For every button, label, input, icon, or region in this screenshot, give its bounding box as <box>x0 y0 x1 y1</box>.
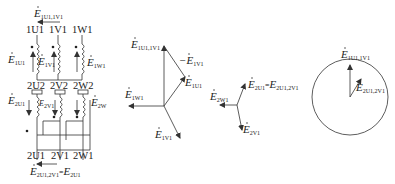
terminal-2V1: 2V1 <box>51 150 69 161</box>
phasor-E2V1 <box>237 105 242 130</box>
emf-label-1U1: E1U1 <box>7 53 25 66</box>
transformer-connection-diagram: E1U1,1V1 1U1 1V1 1W1 E1U1 E1V1 E1W1 2U2 … <box>0 0 395 184</box>
svg-text:E2W1: E2W1 <box>209 90 228 103</box>
secondary-phasor-diagram <box>220 84 245 130</box>
terminal-2U2: 2U2 <box>27 80 45 91</box>
bottom-emf-label: E2U1,2V1=E2U1 <box>29 165 81 178</box>
svg-text:−E1V1: −E1V1 <box>179 54 204 67</box>
circuit-labels: E1U1,1V1 1U1 1V1 1W1 E1U1 E1V1 E1W1 2U2 … <box>7 7 107 178</box>
svg-text:E1U1,1V1: E1U1,1V1 <box>130 38 160 51</box>
svg-text:E2U1=E2U1,2V1: E2U1=E2U1,2V1 <box>247 78 299 91</box>
top-emf-label: E1U1,1V1 <box>33 7 63 20</box>
terminal-1W1: 1W1 <box>72 24 92 35</box>
terminal-1V1: 1V1 <box>49 24 67 35</box>
winding-circuit <box>29 22 90 164</box>
svg-text:E1W1: E1W1 <box>124 88 143 101</box>
primary-coil-w <box>82 35 84 80</box>
secondary-phasor-labels: E2U1=E2U1,2V1 E2W1 E2V1 <box>209 78 299 136</box>
svg-text:E2V1: E2V1 <box>242 123 260 136</box>
svg-text:E1U1: E1U1 <box>184 76 202 89</box>
terminal-2V2: 2V2 <box>50 80 68 91</box>
phasor-E1V1 <box>164 106 180 138</box>
emf-label-2U1: E2U1 <box>7 94 25 107</box>
svg-text:E1V1: E1V1 <box>154 128 172 141</box>
phasor-E1U1 <box>164 77 185 106</box>
phasor-E2U1 <box>237 84 245 105</box>
clock-diagram <box>312 59 388 135</box>
emf-label-1W1: E1W1 <box>86 56 105 69</box>
svg-text:E2U1,2V1: E2U1,2V1 <box>355 81 385 94</box>
terminal-2W1: 2W1 <box>73 150 93 161</box>
terminal-2W2: 2W2 <box>73 80 93 91</box>
primary-coil-v <box>58 35 60 80</box>
emf-label-2W: E2W <box>90 96 107 109</box>
emf-label-2V1: E2V1 <box>38 99 54 109</box>
emf-label-1V1: E1V1 <box>37 55 55 68</box>
secondary-coil-v <box>43 90 65 135</box>
primary-phasor-diagram <box>129 46 185 138</box>
svg-text:E1U1,1V1: E1U1,1V1 <box>340 48 370 61</box>
terminal-2U1: 2U1 <box>27 150 45 161</box>
terminal-1U1: 1U1 <box>26 24 44 35</box>
